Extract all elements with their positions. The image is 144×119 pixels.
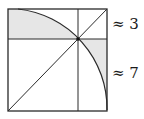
shaded-region-right [78,39,107,110]
label-approx-7: ≈ 7 [112,66,139,81]
intersection-point [76,37,80,41]
label-approx-3: ≈ 3 [112,17,139,32]
shaded-region-top [8,9,78,39]
